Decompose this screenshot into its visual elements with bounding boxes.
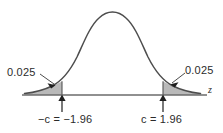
left-critical-value-label: −c = −1.96	[38, 114, 92, 125]
z-axis-label: z	[208, 85, 212, 95]
left-tail-probability-label: 0.025	[7, 67, 36, 78]
right-critical-value-label: c = 1.96	[141, 114, 182, 125]
normal-curve-figure: 0.025 0.025 −c = −1.96 c = 1.96 z	[0, 0, 223, 133]
left-callout-leader-line	[40, 74, 54, 84]
right-callout-leader-line	[172, 73, 185, 83]
right-tail-probability-label: 0.025	[185, 65, 214, 76]
